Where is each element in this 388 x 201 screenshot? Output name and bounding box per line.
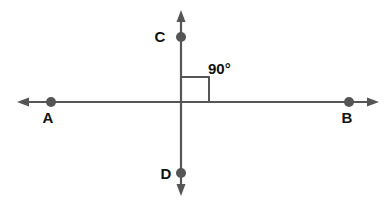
arrowhead-up-icon: [177, 10, 186, 22]
point-b: [344, 97, 354, 107]
label-d: D: [161, 165, 172, 182]
arrowhead-left-icon: [17, 98, 29, 107]
right-angle-marker: [181, 77, 209, 102]
point-c: [176, 32, 186, 42]
label-a: A: [43, 109, 54, 126]
point-d: [176, 168, 186, 178]
line-ab: [17, 98, 379, 107]
arrowhead-right-icon: [367, 98, 379, 107]
diagram-canvas: A B C D 90°: [0, 0, 388, 201]
angle-label: 90°: [208, 60, 231, 77]
perpendicular-lines-diagram: A B C D 90°: [0, 0, 388, 201]
point-a: [46, 97, 56, 107]
label-b: B: [342, 109, 353, 126]
arrowhead-down-icon: [177, 184, 186, 196]
label-c: C: [155, 28, 166, 45]
